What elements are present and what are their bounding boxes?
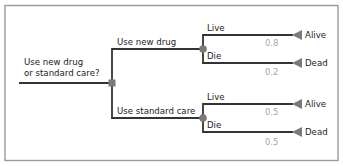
terminal-triangle-icon <box>292 99 302 109</box>
terminal-triangle-icon <box>292 127 302 137</box>
edge-new-drug-live <box>203 35 293 49</box>
terminal-label-standard-care-alive: Alive <box>305 99 326 109</box>
probability-new-drug-die: 0.2 <box>265 67 278 77</box>
terminal-label-new-drug-dead: Dead <box>305 58 328 68</box>
edge-standard-care-live <box>203 104 293 118</box>
outcome-label-new-drug-live: Live <box>207 23 225 33</box>
branch-label-new-drug: Use new drug <box>117 37 176 47</box>
terminal-label-standard-care-dead: Dead <box>305 127 328 137</box>
outcome-label-new-drug-die: Die <box>207 51 221 61</box>
branch-label-standard-care: Use standard care <box>117 106 195 116</box>
decision-tree-diagram: Use new drug or standard care? Use new d… <box>0 0 343 166</box>
outcome-label-standard-care-live: Live <box>207 92 225 102</box>
chance-node-standard-care-icon <box>199 114 207 122</box>
terminal-triangle-icon <box>292 58 302 68</box>
probability-standard-care-die: 0.5 <box>265 137 278 147</box>
outcome-label-standard-care-die: Die <box>207 120 221 130</box>
root-question-line1: Use new drug <box>24 57 83 67</box>
terminal-label-new-drug-alive: Alive <box>305 30 326 40</box>
probability-standard-care-live: 0.5 <box>265 107 278 117</box>
edge-new-drug <box>112 49 203 83</box>
root-question-line2: or standard care? <box>24 68 100 78</box>
chance-node-new-drug-icon <box>199 45 207 53</box>
probability-new-drug-live: 0.8 <box>265 38 278 48</box>
terminal-triangle-icon <box>292 30 302 40</box>
decision-node-icon <box>109 80 116 87</box>
